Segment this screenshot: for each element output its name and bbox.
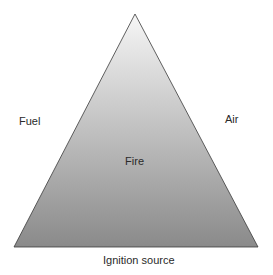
fire-triangle-graphic: [0, 0, 273, 275]
fuel-label: Fuel: [19, 115, 40, 127]
fire-triangle: [14, 14, 258, 247]
air-label: Air: [225, 113, 238, 125]
ignition-source-label: Ignition source: [103, 254, 175, 266]
fire-label: Fire: [125, 155, 144, 167]
